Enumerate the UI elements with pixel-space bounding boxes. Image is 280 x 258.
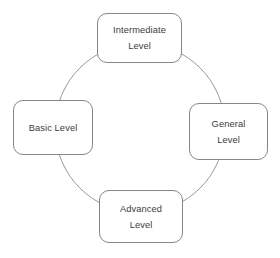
node-general-line-1: General (212, 116, 246, 132)
node-intermediate-line-1: Intermediate (113, 22, 166, 38)
node-intermediate-level[interactable]: Intermediate Level (97, 13, 182, 63)
node-general-line-2: Level (217, 132, 240, 148)
node-basic-line-1: Basic Level (29, 120, 78, 136)
node-intermediate-line-2: Level (128, 38, 151, 54)
node-advanced-line-1: Advanced (120, 201, 162, 217)
node-general-level[interactable]: General Level (189, 103, 268, 160)
node-basic-level[interactable]: Basic Level (13, 100, 93, 155)
diagram-canvas: Intermediate Level General Level Advance… (0, 0, 280, 258)
node-advanced-line-2: Level (130, 217, 153, 233)
node-advanced-level[interactable]: Advanced Level (99, 190, 183, 243)
